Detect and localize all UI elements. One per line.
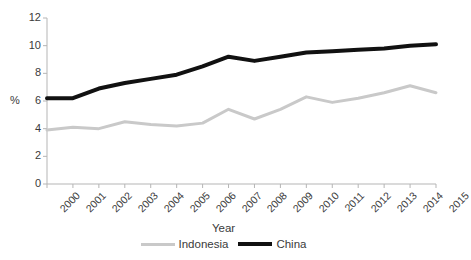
y-tick-label: 12	[19, 12, 41, 23]
legend-swatch-icon-china	[238, 242, 272, 246]
legend-label-indonesia: Indonesia	[179, 238, 229, 250]
series-line-indonesia	[47, 86, 436, 130]
y-tick-label: 6	[19, 95, 41, 106]
series-line-china	[47, 44, 436, 98]
y-tick-label: 0	[19, 178, 41, 189]
x-axis-title: Year	[0, 222, 447, 234]
y-tick-label: 10	[19, 40, 41, 51]
legend-label-china: China	[276, 238, 306, 250]
x-tick-label: 2015	[447, 190, 471, 214]
y-axis-title: %	[10, 95, 20, 106]
chart-legend: Indonesia China	[0, 238, 447, 250]
legend-swatch-icon-indonesia	[141, 243, 175, 246]
series-lines	[47, 44, 436, 130]
legend-item-indonesia[interactable]: Indonesia	[141, 238, 229, 250]
y-axis-ticks	[43, 18, 47, 184]
x-axis-ticks	[47, 184, 436, 188]
y-tick-label: 4	[19, 123, 41, 134]
legend-item-china[interactable]: China	[238, 238, 306, 250]
y-tick-label: 2	[19, 150, 41, 161]
y-tick-label: 8	[19, 67, 41, 78]
